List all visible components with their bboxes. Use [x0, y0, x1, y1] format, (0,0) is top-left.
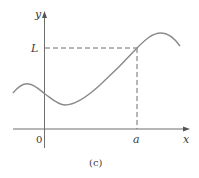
x-axis-label: x: [183, 133, 190, 146]
y-axis-arrow-icon: [42, 11, 47, 18]
L-label: L: [30, 42, 38, 55]
figure-caption: (c): [89, 157, 103, 168]
y-axis-label: y: [34, 8, 42, 21]
dashed-guides: [45, 48, 137, 129]
x-axis: [13, 127, 190, 132]
origin-label: 0: [36, 134, 42, 145]
limit-diagram: y L 0 a x (c): [0, 0, 199, 178]
a-label: a: [133, 133, 140, 146]
y-axis: [42, 11, 47, 148]
x-axis-arrow-icon: [183, 127, 190, 132]
